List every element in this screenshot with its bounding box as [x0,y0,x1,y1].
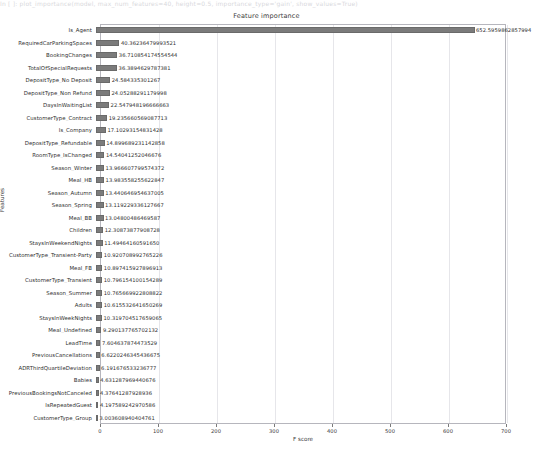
bar [96,77,110,83]
bar-container: 14.54041252046676 [96,149,533,162]
y-tick-label: ADRThirdQuartileDeviation [0,365,96,371]
bar-row: RoomType_IsChanged14.54041252046676 [0,149,533,162]
bar-row: ADRThirdQuartileDeviation6.1916765332367… [0,362,533,375]
bar-value-label: 3.003608940404761 [100,415,155,421]
bar [96,377,99,383]
bar-row: Season_Summer10.765669922808822 [0,287,533,300]
bar-value-label: 7.604637874473529 [102,340,157,346]
bar-value-label: 13.04800486469587 [105,215,160,221]
bar [96,290,102,296]
bar-container: 22.547948196666663 [96,99,533,112]
bar [96,27,475,33]
bar-row: Meal_BB13.04800486469587 [0,212,533,225]
bar-value-label: 13.119229336127667 [105,202,164,208]
y-tick-label: TotalOfSpecialRequests [0,65,96,71]
bar-container: 11.49464160591650 [96,237,533,250]
y-tick-label: Meal_BB [0,215,96,221]
bar [96,127,106,133]
bar-value-label: 24.584335301267 [112,77,161,83]
bar-row: IsRepeatedGuest4.197589242970586 [0,399,533,412]
x-tick [332,424,333,427]
bar-container: 652.5959862857994 [96,24,533,37]
bar [96,90,110,96]
y-tick-label: IsRepeatedGuest [0,402,96,408]
bar-row: Season_Autumn13.440646954637005 [0,187,533,200]
x-tick-label: 700 [501,428,511,434]
bar-container: 19.235660569087713 [96,112,533,125]
bar-row: LeadTime7.604637874473529 [0,337,533,350]
bar-value-label: 10.796154100154289 [104,277,163,283]
bar-value-label: 6.191676533236777 [101,365,156,371]
bar-container: 10.319704517659065 [96,312,533,325]
y-tick-label: Meal_FB [0,265,96,271]
x-tick [390,424,391,427]
x-tick [506,424,507,427]
y-tick-label: Meal_Undefined [0,327,96,333]
bar-row: DepositType_Refundable14.899689231142858 [0,137,533,150]
y-tick-label: StaysInWeekendNights [0,240,96,246]
bar-value-label: 10.920708992765226 [104,252,163,258]
bar [96,152,104,158]
chart-title: Feature importance [0,12,533,20]
bar [96,40,119,46]
y-tick-label: Babies [0,377,96,383]
y-tick-label: BookingChanges [0,52,96,58]
bar-row: StaysInWeekendNights11.49464160591650 [0,237,533,250]
bar-row: PreviousCancellations6.6220246345436675 [0,349,533,362]
x-tick-label: 400 [327,428,337,434]
bar-value-label: 652.5959862857994 [476,27,531,33]
bar-row: Is_Agent652.5959862857994 [0,24,533,37]
y-tick-label: CustomerType_Transient-Party [0,252,96,258]
bar-row: CustomerType_Group3.003608940404761 [0,412,533,425]
bar-value-label: 4.37641287928936 [100,390,152,396]
y-tick-label: Season_Spring [0,202,96,208]
y-tick-label: StaysInWeekNights [0,315,96,321]
x-axis-label: F score [100,436,506,442]
bar-value-label: 4.197589242970586 [100,402,155,408]
x-tick-label: 600 [443,428,453,434]
bar [96,265,102,271]
bar-value-label: 10.615532641650269 [104,302,163,308]
y-tick-label: RoomType_IsChanged [0,152,96,158]
bar [96,240,103,246]
y-tick-label: DepositType_Refundable [0,140,96,146]
bar-container: 9.290137765702132 [96,324,533,337]
bar [96,340,100,346]
x-tick [158,424,159,427]
bar [96,402,98,408]
bar-value-label: 13.440646954637005 [105,190,164,196]
y-tick-label: CustomerType_Transient [0,277,96,283]
bar [96,215,104,221]
bar [96,177,104,183]
bar-row: Babies4.631287969440676 [0,374,533,387]
bar-container: 4.197589242970586 [96,399,533,412]
bar [96,52,117,58]
bar-container: 24.584335301267 [96,74,533,87]
y-tick-label: RequiredCarParkingSpaces [0,40,96,46]
x-tick-label: 100 [153,428,163,434]
bar-container: 7.604637874473529 [96,337,533,350]
y-tick-label: Adults [0,302,96,308]
bar-value-label: 36.710854174554544 [119,52,178,58]
bar-value-label: 12.30873877908728 [105,227,160,233]
bar-row: Meal_HB13.983558255622847 [0,174,533,187]
y-tick-label: Children [0,227,96,233]
bar-row: PreviousBookingsNotCanceled4.37641287928… [0,387,533,400]
bar-container: 40.36236479993521 [96,37,533,50]
bar-value-label: 40.36236479993521 [121,40,176,46]
bar-rows: Is_Agent652.5959862857994RequiredCarPark… [0,24,533,424]
bar-row: DepositType_Non Refund24.05288291179998 [0,87,533,100]
x-tick [448,424,449,427]
bar-container: 10.765669922808822 [96,287,533,300]
bar-value-label: 4.631287969440676 [100,377,155,383]
bar-value-label: 13.983558255622847 [106,177,165,183]
bar-container: 6.6220246345436675 [96,349,533,362]
bar-value-label: 14.899689231142858 [106,140,165,146]
feature-importance-figure: In [ ]: plot_importance(model, max_num_f… [0,0,533,461]
bar-container: 3.003608940404761 [96,412,533,425]
bar-value-label: 9.290137765702132 [103,327,158,333]
bar [96,252,102,258]
bar-row: Adults10.615532641650269 [0,299,533,312]
x-tick-label: 200 [211,428,221,434]
y-tick-label: Season_Autumn [0,190,96,196]
